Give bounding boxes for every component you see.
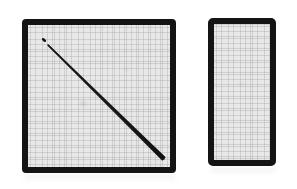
rectangle-panel-shadow [210, 168, 276, 172]
figure-canvas [0, 0, 297, 189]
rectangle-panel[interactable] [208, 18, 276, 166]
square-panel[interactable] [22, 19, 176, 173]
square-panel-shadow [24, 175, 176, 179]
rectangle-panel-interior [214, 24, 270, 160]
diagonal-line-core [48, 45, 164, 159]
line-start-dot [41, 37, 47, 43]
paper-blemish [254, 130, 259, 133]
square-panel-interior [28, 25, 170, 167]
graph-paper-grid-texture [214, 24, 270, 160]
diagonal-line-layer [28, 25, 170, 167]
paper-blemish [238, 82, 244, 86]
